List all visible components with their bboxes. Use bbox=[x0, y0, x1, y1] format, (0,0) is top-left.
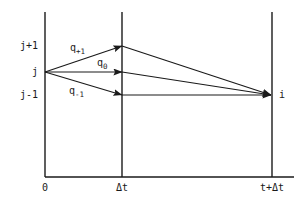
flux-label-q-minus-1-subscript: -1 bbox=[75, 90, 84, 99]
row-label-j-minus-1: j-1 bbox=[0, 90, 38, 100]
row-label-j-plus-1: j+1 bbox=[0, 41, 38, 51]
axis-tick-label-t-plus-delta-t: t+Δt bbox=[248, 183, 296, 193]
axis-tick-label-delta-t: Δt bbox=[109, 183, 135, 193]
diagram-canvas: j+1 j j-1 q+1 q0 q-1 i 0 Δt t+Δt bbox=[0, 0, 301, 200]
diagram-vector-layer bbox=[0, 0, 301, 200]
flux-label-q-zero-subscript: 0 bbox=[103, 62, 108, 71]
row-label-j: j bbox=[0, 67, 38, 77]
flux-label-q-plus-1: q+1 bbox=[70, 43, 85, 54]
ray-middle-to-i bbox=[122, 72, 271, 95]
ray-upper-to-i bbox=[122, 46, 271, 95]
flux-label-q-plus-1-subscript: +1 bbox=[76, 47, 85, 56]
target-node-label-i: i bbox=[279, 90, 285, 100]
axis-tick-label-zero: 0 bbox=[35, 183, 55, 193]
flux-label-q-zero: q0 bbox=[97, 58, 108, 69]
flux-label-q-minus-1: q-1 bbox=[69, 86, 84, 97]
